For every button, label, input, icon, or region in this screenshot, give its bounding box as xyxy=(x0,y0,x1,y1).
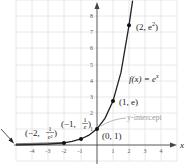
svg-text:1: 1 xyxy=(84,117,87,123)
x-axis-label: x xyxy=(179,140,184,150)
svg-text:-4: -4 xyxy=(30,148,35,154)
label-point-neg1: (−1, 1 e ) xyxy=(61,117,91,130)
y-axis-arrow-icon xyxy=(95,2,100,9)
point-0 xyxy=(95,127,99,131)
svg-text:2: 2 xyxy=(90,110,93,116)
svg-text:1: 1 xyxy=(112,148,115,154)
label-point-0: (0, 1) xyxy=(102,131,122,141)
y-tick-labels: 1 2 3 4 5 6 7 8 xyxy=(90,13,93,132)
label-point-1: (1, e) xyxy=(119,97,138,107)
x-tick-labels: -4 -3 -2 -1 1 2 3 4 xyxy=(30,148,163,154)
point-neg1 xyxy=(79,137,83,141)
point-1 xyxy=(111,99,115,103)
y-intercept-label: y-intercept xyxy=(127,113,162,122)
point-2 xyxy=(127,23,131,27)
label-point-neg2: (−2, 1 e² ) xyxy=(25,126,57,140)
label-point-2: (2, e2) xyxy=(136,21,158,32)
svg-text:6: 6 xyxy=(90,45,93,51)
svg-text:5: 5 xyxy=(90,62,93,68)
svg-text:-1: -1 xyxy=(78,148,83,154)
svg-text:2: 2 xyxy=(128,148,131,154)
svg-text:e²: e² xyxy=(48,134,53,140)
svg-text:4: 4 xyxy=(90,78,93,84)
svg-text:-3: -3 xyxy=(46,148,51,154)
x-axis-arrow-icon xyxy=(170,143,177,148)
svg-text:-2: -2 xyxy=(62,148,67,154)
svg-text:): ) xyxy=(54,128,57,138)
svg-text:7: 7 xyxy=(90,29,93,35)
svg-text:(−2,: (−2, xyxy=(25,128,40,138)
svg-text:8: 8 xyxy=(90,13,93,19)
svg-text:1: 1 xyxy=(49,126,52,132)
svg-text:3: 3 xyxy=(90,94,93,100)
label-function: f(x) = ex xyxy=(129,73,159,84)
svg-text:3: 3 xyxy=(144,148,147,154)
svg-text:): ) xyxy=(88,119,91,129)
point-neg2 xyxy=(62,141,66,145)
svg-text:4: 4 xyxy=(160,148,163,154)
svg-text:(−1,: (−1, xyxy=(61,119,76,129)
svg-text:e: e xyxy=(84,124,87,130)
exponential-chart: -4 -3 -2 -1 1 2 3 4 1 2 3 4 5 6 7 8 x (2… xyxy=(0,0,187,168)
